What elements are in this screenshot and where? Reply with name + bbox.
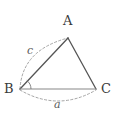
side-label-c: c <box>27 45 33 56</box>
geometry-figure: A B C c a <box>0 0 116 116</box>
vertex-label-c: C <box>101 82 111 95</box>
vertex-label-a: A <box>63 14 72 27</box>
vertex-label-b: B <box>4 82 14 95</box>
segment-ac <box>68 38 96 89</box>
side-label-a: a <box>54 99 61 110</box>
